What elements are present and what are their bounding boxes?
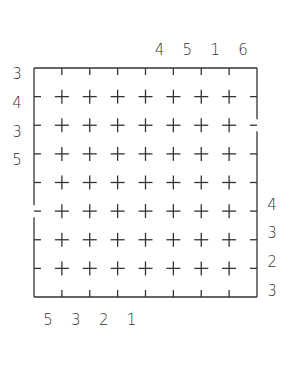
clue-top-6: 5 [177,41,197,59]
clue-left-3: 3 [7,123,27,141]
clue-bottom-2: 3 [66,311,86,329]
clue-left-2: 4 [7,94,27,112]
clue-bottom-1: 5 [38,311,58,329]
clue-top-8: 6 [233,41,253,59]
clue-right-8: 3 [262,282,282,300]
clue-bottom-4: 1 [122,311,142,329]
clue-top-7: 1 [205,41,225,59]
puzzle-board: 4516532134354323 [0,0,294,369]
clue-bottom-3: 2 [94,311,114,329]
clue-right-7: 2 [262,253,282,271]
clue-left-1: 3 [7,65,27,83]
clue-right-5: 4 [262,196,282,214]
clue-left-4: 5 [7,151,27,169]
clue-top-5: 4 [149,41,169,59]
clue-right-6: 3 [262,224,282,242]
